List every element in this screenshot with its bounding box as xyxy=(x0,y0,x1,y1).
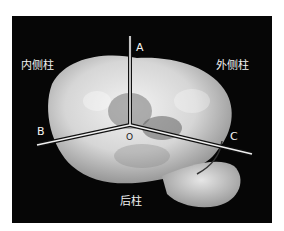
point-b-label: B xyxy=(37,126,45,138)
lateral-column-label: 外侧柱 xyxy=(216,60,249,72)
specimen-photo: 内侧柱 外侧柱 后柱 A B C O xyxy=(12,16,272,223)
point-c-label: C xyxy=(230,131,238,143)
origin-label: O xyxy=(126,132,133,142)
medial-column-label: 内侧柱 xyxy=(21,60,54,72)
posterior-column-label: 后柱 xyxy=(120,196,142,208)
point-a-label: A xyxy=(136,42,144,54)
